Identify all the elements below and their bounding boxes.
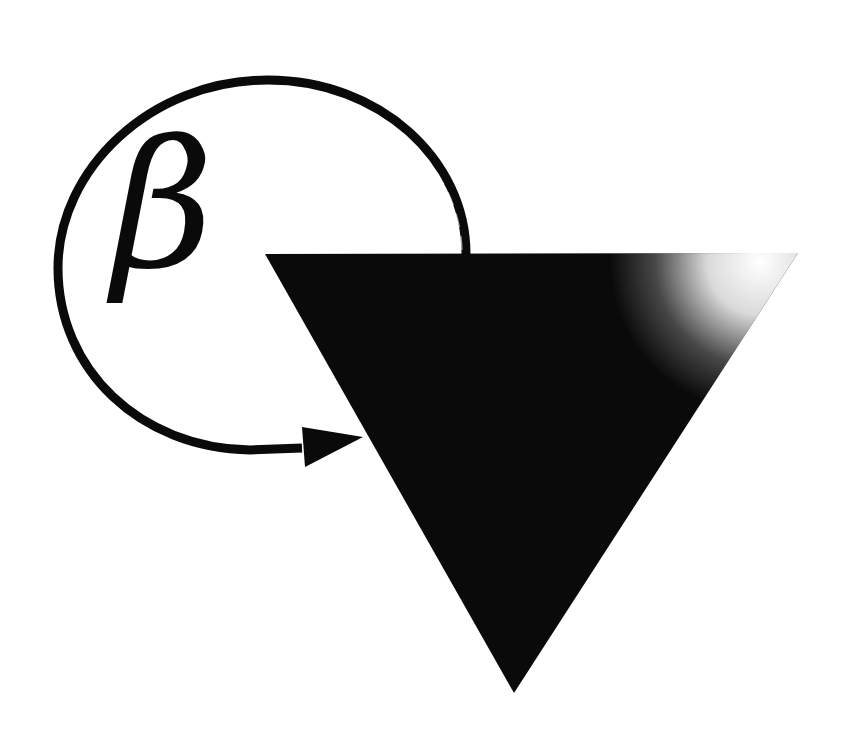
amplifier-triangle	[265, 240, 820, 693]
arrowhead-icon	[302, 427, 363, 467]
triangle-highlight	[600, 240, 820, 440]
feedback-diagram: β	[0, 0, 843, 737]
beta-symbol: β	[112, 118, 214, 294]
